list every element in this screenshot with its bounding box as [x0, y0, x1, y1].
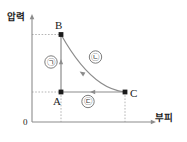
x-axis-label: 부피	[155, 113, 172, 123]
process-arrow-step2	[80, 72, 86, 77]
process-curve-step2	[61, 35, 125, 93]
point-label-a: A	[53, 96, 61, 107]
point-marker-a	[59, 90, 64, 95]
point-label-c: C	[130, 88, 137, 99]
origin-label: 0	[23, 118, 28, 127]
process-label-step2: ㉡	[91, 53, 99, 62]
process-arrow-step1	[59, 59, 63, 64]
process-label-step3: ㉢	[84, 97, 92, 106]
process-label-step1: ㉠	[47, 58, 55, 67]
point-marker-c	[123, 90, 128, 95]
y-axis-label: 압력	[7, 12, 24, 22]
y-axis-arrowhead	[30, 14, 35, 19]
pressure-volume-diagram: 압력 부피 0 B A C ㉠ ㉡ ㉢	[0, 0, 187, 142]
point-marker-b	[59, 32, 64, 37]
process-arrow-step3	[90, 90, 95, 94]
point-label-b: B	[55, 20, 62, 31]
